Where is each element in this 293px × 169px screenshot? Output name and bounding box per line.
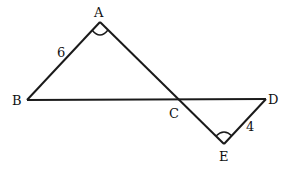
- segment-bd: [27, 99, 266, 100]
- point-label-a: A: [93, 5, 104, 20]
- length-label-ab: 6: [57, 45, 65, 60]
- angle-mark-e: [216, 132, 232, 136]
- geometry-diagram: A B C D E 6 4: [0, 0, 293, 169]
- length-label-ed: 4: [246, 119, 254, 134]
- point-label-c: C: [169, 106, 179, 121]
- point-label-d: D: [268, 92, 278, 107]
- segment-ed: [224, 99, 266, 144]
- point-label-e: E: [219, 149, 229, 164]
- point-label-b: B: [12, 93, 22, 108]
- segment-ae: [100, 22, 224, 144]
- angle-mark-a: [92, 30, 108, 35]
- segment-ab: [27, 22, 100, 100]
